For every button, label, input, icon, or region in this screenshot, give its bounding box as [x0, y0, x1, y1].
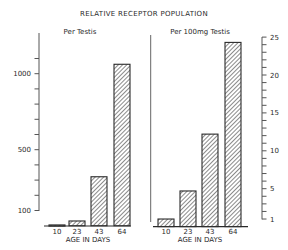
right-tick-label: 20 — [270, 72, 279, 80]
receptor-population-chart: RELATIVE RECEPTOR POPULATION Per Testis … — [0, 0, 288, 250]
left-tick-label: 500 — [18, 146, 31, 154]
right-x-axis-label: AGE IN DAYS — [178, 236, 223, 244]
right-tick-label: 15 — [270, 109, 279, 117]
left-x-tick-label: 23 — [73, 228, 82, 236]
right-x-tick-label: 43 — [206, 228, 215, 236]
right-bar-age-43 — [202, 134, 218, 226]
left-panel: Per Testis 1005001000 10234364 AGE IN DA… — [13, 28, 131, 244]
right-tick-label: 10 — [270, 147, 279, 155]
left-x-tick-labels: 10234364 — [53, 228, 127, 236]
left-x-axis-label: AGE IN DAYS — [66, 236, 111, 244]
left-y-ticks: 1005001000 — [13, 59, 39, 216]
left-bar-age-64 — [114, 64, 130, 225]
right-bars — [158, 42, 241, 226]
left-x-tick-label: 43 — [95, 228, 104, 236]
right-bar-age-64 — [225, 42, 241, 226]
left-x-tick-label: 10 — [53, 228, 62, 236]
left-panel-subtitle: Per Testis — [64, 28, 97, 36]
right-x-tick-label: 64 — [229, 228, 238, 236]
left-tick-label: 1000 — [13, 70, 31, 78]
left-tick-label: 100 — [18, 207, 31, 215]
left-bar-age-43 — [91, 177, 107, 226]
right-x-tick-label: 10 — [162, 228, 171, 236]
right-y-ticks: 1510152025 — [262, 34, 279, 224]
right-x-tick-label: 23 — [184, 228, 193, 236]
right-tick-label: 25 — [270, 34, 279, 42]
right-bar-age-10 — [158, 219, 174, 227]
right-x-tick-labels: 10234364 — [162, 228, 238, 236]
right-tick-label: 1 — [270, 216, 274, 224]
left-bars — [49, 64, 130, 226]
left-x-tick-label: 64 — [118, 228, 127, 236]
left-bar-age-10 — [49, 225, 65, 226]
right-bar-age-23 — [180, 191, 196, 227]
right-panel: Per 100mg Testis 1510152025 10234364 AGE… — [153, 28, 279, 244]
figure-title: RELATIVE RECEPTOR POPULATION — [80, 10, 208, 18]
right-tick-label: 5 — [270, 185, 274, 193]
left-bar-age-23 — [69, 221, 85, 226]
right-panel-subtitle: Per 100mg Testis — [170, 28, 230, 36]
